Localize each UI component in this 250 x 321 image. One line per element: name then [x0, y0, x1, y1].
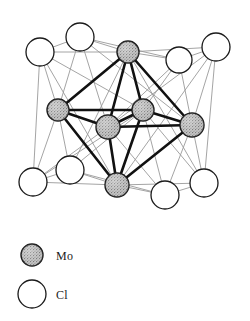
legend-marker-cl	[18, 280, 46, 308]
mo-atom-shading	[105, 173, 129, 197]
mo-atom-shading	[96, 115, 120, 139]
cl-cl-bond	[33, 52, 40, 182]
legend-marker-mo-shading	[21, 244, 43, 266]
legend-label-cl: Cl	[56, 288, 68, 303]
cl-atom	[19, 168, 47, 196]
molecular-structure-figure: Mo Cl	[0, 0, 250, 321]
cl-atom	[66, 23, 94, 51]
cl-atom	[166, 47, 192, 73]
legend-markers	[18, 244, 46, 308]
mo-mo-bond	[58, 52, 128, 110]
cl-atom	[202, 33, 230, 61]
cl-atom	[151, 181, 179, 209]
mo-atom-shading	[117, 41, 139, 63]
cl-atom	[190, 169, 218, 197]
legend-label-mo: Mo	[56, 249, 73, 264]
mo-atom-shading	[180, 113, 204, 137]
mo-atom-shading	[132, 99, 154, 121]
mo-atom-shading	[47, 99, 69, 121]
structure-diagram	[0, 0, 250, 321]
cl-atom	[56, 156, 84, 184]
cl-atom	[26, 38, 54, 66]
